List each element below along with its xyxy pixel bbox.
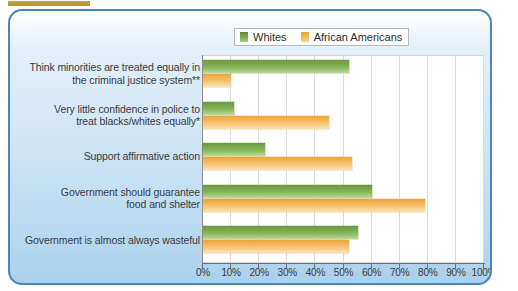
top-accent-tab: [8, 1, 90, 6]
x-axis-tick-label: 20%: [244, 267, 274, 278]
orange-swatch-icon: [301, 32, 309, 42]
category-label-line: the criminal justice system**: [20, 74, 200, 87]
x-axis-tick-label: 10%: [216, 267, 246, 278]
category-label-line: Very little confidence in police to: [20, 103, 200, 116]
bar-african-americans: [203, 240, 349, 253]
category-label: Support affirmative action: [20, 150, 200, 163]
legend-label-whites: Whites: [253, 31, 287, 43]
legend-label-african-americans: African Americans: [314, 31, 403, 43]
gridline: [371, 56, 372, 262]
category-label: Very little confidence in police totreat…: [20, 103, 200, 128]
category-label-line: Government is almost always wasteful: [20, 234, 200, 247]
x-axis-tick-label: 100%: [469, 267, 492, 278]
x-axis-tick-label: 0%: [188, 267, 218, 278]
category-label: Think minorities are treated equally int…: [20, 61, 200, 86]
category-label: Government is almost always wasteful: [20, 234, 200, 247]
legend-item-whites: Whites: [240, 31, 287, 43]
category-label-line: Think minorities are treated equally in: [20, 61, 200, 74]
x-axis-line: [202, 263, 485, 264]
category-label-line: Government should guarantee: [20, 186, 200, 199]
x-axis-tick-label: 30%: [272, 267, 302, 278]
chart-panel: Whites African Americans Think minoritie…: [8, 9, 492, 285]
bar-whites: [203, 226, 358, 239]
bar-whites: [203, 60, 349, 73]
x-axis-tick-label: 80%: [413, 267, 443, 278]
bar-african-americans: [203, 157, 352, 170]
legend-item-african-americans: African Americans: [301, 31, 403, 43]
bar-whites: [203, 185, 372, 198]
x-axis-tick-label: 70%: [385, 267, 415, 278]
gridline: [455, 56, 456, 262]
green-swatch-icon: [240, 32, 248, 42]
category-label-line: treat blacks/whites equally*: [20, 115, 200, 128]
chart-legend: Whites African Americans: [234, 28, 409, 46]
gridline: [483, 56, 484, 262]
x-axis-tick-label: 60%: [357, 267, 387, 278]
bar-african-americans: [203, 116, 329, 129]
bar-african-americans: [203, 74, 231, 87]
x-axis-tick-label: 40%: [300, 267, 330, 278]
bar-whites: [203, 102, 234, 115]
category-label-column: Think minorities are treated equally int…: [14, 11, 200, 283]
x-axis-tick-label: 50%: [329, 267, 359, 278]
category-label-line: Support affirmative action: [20, 150, 200, 163]
gridline: [399, 56, 400, 262]
bar-african-americans: [203, 199, 425, 212]
category-label-line: food and shelter: [20, 198, 200, 211]
gridline: [427, 56, 428, 262]
x-axis-tick-label: 90%: [441, 267, 471, 278]
bar-whites: [203, 143, 265, 156]
category-label: Government should guaranteefood and shel…: [20, 186, 200, 211]
